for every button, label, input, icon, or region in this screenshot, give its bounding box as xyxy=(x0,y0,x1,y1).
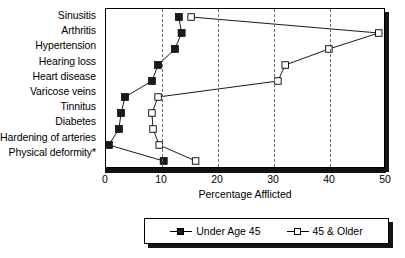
data-point-marker xyxy=(150,126,157,133)
chart-legend: Under Age 45 45 & Older xyxy=(144,218,389,244)
plot-area xyxy=(105,8,385,168)
data-point-marker xyxy=(175,14,182,21)
legend-label: Under Age 45 xyxy=(196,225,260,237)
series-layer xyxy=(106,9,386,169)
x-axis-tick-label: 0 xyxy=(102,173,108,185)
legend-label: 45 & Older xyxy=(313,225,363,237)
data-point-marker xyxy=(171,46,178,53)
x-axis-bar xyxy=(105,168,386,173)
data-point-marker xyxy=(375,30,382,37)
y-axis-label: Arthritis xyxy=(0,23,100,38)
y-axis-label: Varicose veins xyxy=(0,84,100,99)
x-axis-tick-label: 50 xyxy=(379,173,391,185)
y-axis-label: Hypertension xyxy=(0,38,100,53)
chart-figure: Sinusitis Arthritis Hypertension Hearing… xyxy=(0,0,405,258)
data-point-marker xyxy=(155,94,162,101)
x-axis-tick-label: 20 xyxy=(211,173,223,185)
data-point-marker xyxy=(282,62,289,69)
data-point-marker xyxy=(148,78,155,85)
grid-line xyxy=(330,9,331,167)
y-axis-label: Hardening of arteries xyxy=(0,130,100,145)
x-axis-title: Percentage Afflicted xyxy=(105,188,385,200)
data-point-marker xyxy=(155,62,162,69)
x-axis-tick-label: 30 xyxy=(267,173,279,185)
y-axis-labels: Sinusitis Arthritis Hypertension Hearing… xyxy=(0,8,100,160)
series-line xyxy=(109,17,182,161)
x-axis-tick-label: 40 xyxy=(323,173,335,185)
data-point-marker xyxy=(192,158,199,165)
grid-line xyxy=(162,9,163,167)
x-axis-tick-label: 10 xyxy=(155,173,167,185)
y-axis-label: Physical deformity* xyxy=(0,145,100,160)
data-point-marker xyxy=(178,30,185,37)
series-line xyxy=(152,17,379,161)
y-axis-label: Sinusitis xyxy=(0,8,100,23)
y-axis-label: Tinnitus xyxy=(0,99,100,114)
y-axis-label: Heart disease xyxy=(0,69,100,84)
data-point-marker xyxy=(188,14,195,21)
legend-entry-under-45: Under Age 45 xyxy=(170,225,260,237)
legend-entry-45-and-older: 45 & Older xyxy=(287,225,363,237)
open-square-icon xyxy=(287,227,309,236)
data-point-marker xyxy=(118,110,125,117)
grid-line xyxy=(218,9,219,167)
y-axis-label: Diabetes xyxy=(0,114,100,129)
data-point-marker xyxy=(106,142,112,149)
data-point-marker xyxy=(326,46,333,53)
data-point-marker xyxy=(275,78,282,85)
data-point-marker xyxy=(122,94,129,101)
grid-line xyxy=(274,9,275,167)
data-point-marker xyxy=(115,126,122,133)
y-axis-label: Hearing loss xyxy=(0,54,100,69)
data-point-marker xyxy=(149,110,156,117)
filled-square-icon xyxy=(170,227,192,236)
